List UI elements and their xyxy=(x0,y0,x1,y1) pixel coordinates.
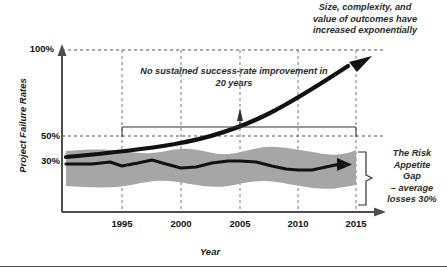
x-tick-2010: 2010 xyxy=(276,218,320,229)
annotation-no-improvement: No sustained success-rate improvement in… xyxy=(128,66,340,89)
x-tick-2005: 2005 xyxy=(218,218,262,229)
risk-appetite-gap-bracket xyxy=(358,152,372,205)
x-axis-title: Year xyxy=(150,246,270,257)
annotation-risk-appetite-gap: The Risk Appetite Gap – average losses 3… xyxy=(378,148,446,206)
y-tick-100: 100% xyxy=(14,43,54,54)
annotation-exponential-growth: Size, complexity, and value of outcomes … xyxy=(286,2,444,37)
twenty-year-bracket xyxy=(122,108,356,137)
page-separator-rule xyxy=(0,266,447,267)
x-tick-2000: 2000 xyxy=(159,218,203,229)
x-axis-arrowhead xyxy=(374,208,386,217)
chart-canvas xyxy=(0,0,447,275)
y-axis-arrowhead xyxy=(58,44,67,56)
y-axis-title: Project Failure Rates xyxy=(17,66,28,186)
chart-figure: 100% 50% 30% 1995 2000 2005 2010 2015 Pr… xyxy=(0,0,447,275)
x-tick-2015: 2015 xyxy=(334,218,378,229)
exponential-growth-arrowhead xyxy=(349,56,372,72)
x-tick-1995: 1995 xyxy=(100,218,144,229)
